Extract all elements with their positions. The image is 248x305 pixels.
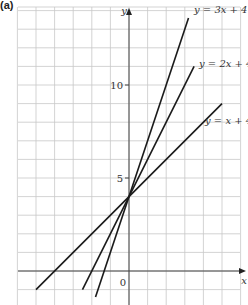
y-axis-arrow-icon xyxy=(126,8,132,15)
series-line xyxy=(96,18,189,297)
series-label: y = x + 4 xyxy=(204,115,248,126)
x-axis-label: x xyxy=(241,275,247,286)
y-axis-label: y xyxy=(120,5,127,16)
series-label: y = 2x + 4 xyxy=(198,58,248,69)
y-tick-label: 10 xyxy=(110,80,123,91)
origin-label: 0 xyxy=(120,277,126,288)
line-chart: xy0510y = 3x + 4y = 2x + 4y = x + 4 xyxy=(0,0,248,305)
y-tick-label: 5 xyxy=(117,173,123,184)
x-axis-arrow-icon xyxy=(239,268,246,274)
series-label: y = 3x + 4 xyxy=(193,4,248,15)
axes: xy0510 xyxy=(18,5,247,305)
